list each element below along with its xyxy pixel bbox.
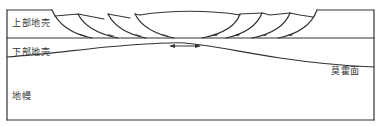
upper-crust-label: 上部地壳 (12, 16, 50, 29)
right-tilted-block-top-1 (240, 13, 262, 14)
crustal-extension-diagram (0, 0, 381, 126)
left-fault-4 (135, 14, 174, 38)
moho-label: 莫霍面 (331, 64, 360, 77)
right-tilted-block-top-3 (290, 13, 313, 17)
left-tilted-block-top-2 (108, 14, 130, 18)
right-tilted-block-top-2 (262, 13, 290, 15)
right-fault-1 (202, 14, 240, 38)
extension-arrow-left-head (169, 44, 175, 48)
slip-arrow-left-3 (135, 34, 142, 36)
slip-arrow-left-2 (108, 34, 115, 36)
right-fault-3 (252, 13, 290, 38)
slip-arrow-left-1 (80, 34, 87, 36)
mantle-label: 地幔 (12, 89, 31, 102)
slip-arrow-left-4 (162, 34, 169, 36)
lower-crust-label: 下部地壳 (12, 45, 50, 58)
central-basin-surface (140, 11, 240, 15)
